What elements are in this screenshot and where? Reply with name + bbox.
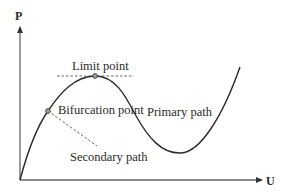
x-axis-label: U <box>266 174 275 188</box>
primary-path-label: Primary path <box>147 105 213 119</box>
limit-point-marker <box>93 74 98 79</box>
y-axis-label: P <box>15 9 22 23</box>
load-displacement-diagram: P U Limit point Bifurcation point Primar… <box>0 0 286 192</box>
limit-point-label: Limit point <box>72 59 129 73</box>
bifurcation-point-marker <box>46 109 51 114</box>
secondary-path-label: Secondary path <box>70 150 148 164</box>
bifurcation-point-label: Bifurcation point <box>58 103 144 117</box>
